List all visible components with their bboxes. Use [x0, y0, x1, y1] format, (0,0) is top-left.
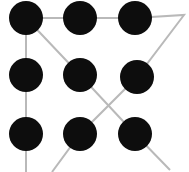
dot-middle-left[interactable]: [9, 58, 43, 92]
pattern-svg: [0, 0, 189, 172]
path-main-diagonal: [26, 18, 170, 170]
dot-bottom-right[interactable]: [118, 117, 152, 151]
dot-middle-center[interactable]: [63, 58, 97, 92]
grid-dots-group: [9, 1, 154, 151]
connector-lines-group: [26, 15, 184, 172]
dot-top-right[interactable]: [118, 1, 152, 35]
path-left-column-and-top-row: [26, 15, 184, 172]
dot-middle-right[interactable]: [120, 60, 154, 94]
dot-bottom-left[interactable]: [9, 117, 43, 151]
dot-top-center[interactable]: [63, 1, 97, 35]
dot-bottom-center[interactable]: [63, 117, 97, 151]
dot-top-left[interactable]: [9, 1, 43, 35]
dot-grid-figure: [0, 0, 189, 172]
